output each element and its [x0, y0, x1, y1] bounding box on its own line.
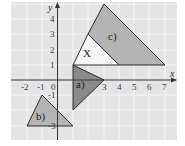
y-tick: -3 — [48, 121, 56, 131]
x-tick: 5 — [132, 82, 137, 92]
x-axis-label: x — [169, 68, 175, 79]
x-tick: -1 — [37, 82, 45, 92]
y-tick: 3 — [50, 29, 55, 39]
y-tick: 1 — [50, 60, 55, 70]
x-tick: 6 — [147, 82, 152, 92]
x-tick: 3 — [102, 82, 107, 92]
y-tick: 4 — [50, 14, 55, 24]
y-axis-label: y — [47, 2, 53, 13]
x-tick: 7 — [162, 82, 167, 92]
shape-label-c: c) — [108, 30, 117, 43]
y-tick: -1 — [48, 90, 56, 100]
y-tick: 2 — [50, 45, 55, 55]
coordinate-diagram: x y 0 -2 -1 3 4 5 6 7 1 2 3 4 -1 -3 a) b… — [0, 0, 185, 146]
shape-label-b: b) — [36, 110, 46, 123]
shape-label-a: a) — [76, 78, 85, 91]
shape-label-x: X — [83, 47, 91, 59]
x-tick: 4 — [117, 82, 122, 92]
x-tick: -2 — [21, 82, 29, 92]
